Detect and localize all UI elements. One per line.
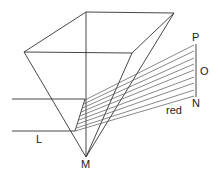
label-red: red — [166, 104, 182, 116]
prism-edges — [24, 12, 174, 157]
prism-top-face — [24, 12, 174, 53]
label-P: P — [192, 31, 199, 43]
label-L: L — [36, 133, 42, 145]
incident-beam — [12, 99, 85, 131]
label-N: N — [192, 97, 200, 109]
label-M: M — [81, 158, 90, 170]
prism-diagram: P O N red L M — [0, 0, 218, 179]
dispersed-rays — [75, 45, 194, 131]
label-O: O — [200, 65, 209, 77]
